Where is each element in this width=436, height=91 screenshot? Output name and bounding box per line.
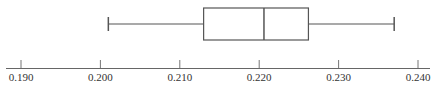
tick-label: 0.240: [406, 71, 431, 83]
tick-label: 0.230: [326, 71, 351, 83]
interquartile-box: [204, 8, 309, 40]
box-plot-chart: 0.1900.2000.2100.2200.2300.240: [0, 0, 436, 91]
tick-label: 0.210: [167, 71, 192, 83]
tick-label: 0.190: [9, 71, 34, 83]
tick-label: 0.220: [247, 71, 272, 83]
tick-label: 0.200: [88, 71, 113, 83]
box-plot: [108, 8, 394, 40]
x-axis: 0.1900.2000.2100.2200.2300.240: [6, 60, 431, 83]
